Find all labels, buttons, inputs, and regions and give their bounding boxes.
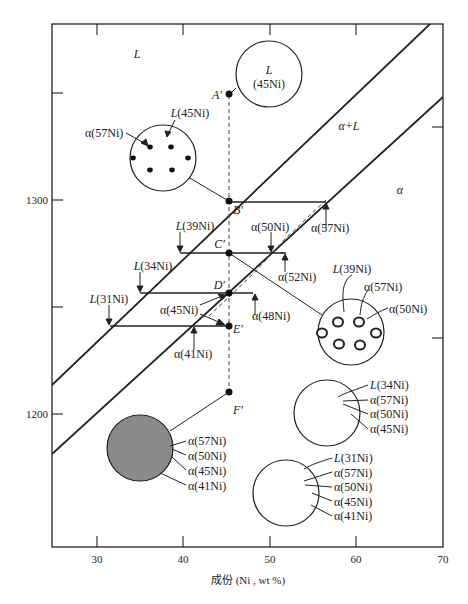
y-tick-1200: 1200 [26, 408, 49, 420]
circleD-a50: α(50Ni) [370, 407, 408, 421]
circleC-a50: α(50Ni) [389, 302, 427, 316]
microstructure-E [253, 460, 319, 526]
tie-label-a57: α(57Ni) [311, 221, 349, 235]
tie-label-a50: α(50Ni) [251, 220, 289, 234]
tie-label-L39: L(39Ni) [175, 219, 215, 233]
circleE-a45: α(45Ni) [334, 495, 372, 509]
region-solid: α [397, 183, 404, 197]
point-D: D′ [213, 278, 226, 292]
circleE-a50: α(50Ni) [334, 480, 372, 494]
circleF-a57: α(57Ni) [188, 434, 226, 448]
x-tick-30: 30 [92, 553, 104, 565]
microstructure-D [294, 380, 360, 446]
circleE-a57: α(57Ni) [334, 466, 372, 480]
circleB-L: L(45Ni) [170, 106, 210, 120]
circleF-a45: α(45Ni) [188, 464, 226, 478]
point-A: A′ [211, 88, 222, 102]
circleE-L31: L(31Ni) [333, 451, 373, 465]
circleC-a57: α(57Ni) [364, 280, 402, 294]
tie-label-a41: α(41Ni) [174, 347, 212, 361]
circleB-a: α(57Ni) [85, 126, 123, 140]
tie-label-a52: α(52Ni) [278, 270, 316, 284]
circleA-L: L [265, 63, 273, 77]
point-B: B′ [233, 203, 243, 217]
circleE-a41: α(41Ni) [334, 509, 372, 523]
point-F: F′ [232, 403, 243, 417]
x-tick-50: 50 [265, 553, 277, 565]
x-tick-70: 70 [438, 553, 450, 565]
circleC-L39: L(39Ni) [332, 262, 372, 276]
tie-label-a48: α(48Ni) [252, 309, 290, 323]
microstructure-F [107, 415, 173, 481]
point-C: C′ [214, 237, 225, 251]
x-axis-label: 成份 (Ni , wt %) [211, 574, 286, 587]
y-tick-1300: 1300 [26, 194, 49, 206]
region-liquid: L [133, 47, 141, 61]
point-E: E′ [232, 322, 243, 336]
region-two-phase: α+L [338, 119, 359, 133]
tie-label-L34: L(34Ni) [133, 259, 173, 273]
x-tick-40: 40 [178, 553, 190, 565]
circleD-L34: L(34Ni) [369, 378, 409, 392]
circleF-a50: α(50Ni) [188, 449, 226, 463]
circleA-comp: (45Ni) [253, 77, 285, 91]
circleD-a45: α(45Ni) [370, 422, 408, 436]
x-tick-60: 60 [351, 553, 363, 565]
tie-label-a45: α(45Ni) [160, 303, 198, 317]
circleD-a57: α(57Ni) [370, 393, 408, 407]
tie-label-L31: L(31Ni) [89, 292, 129, 306]
phase-diagram: 30 40 50 60 70 1300 1200 成份 (Ni , wt %) … [0, 0, 468, 604]
circleF-a41: α(41Ni) [188, 479, 226, 493]
